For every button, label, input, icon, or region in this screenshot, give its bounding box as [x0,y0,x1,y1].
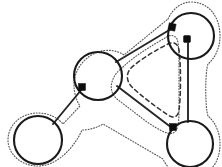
marker-top-left [168,23,176,31]
marker-bottom-right [170,124,177,131]
inner-dashed-triangle [127,43,180,117]
diagram-canvas [0,0,222,167]
edge-middle-to-bottomright [117,86,172,128]
marker-top-bottom [184,36,191,43]
marker-middle [79,84,86,91]
figure-root: Graph diagram with circular vertices, co… [0,0,222,167]
graph-markers [79,23,191,131]
circle-bottom-left [14,116,62,164]
edge-middle-to-topright [116,29,171,62]
inner-dashed-triangle-path [127,43,180,117]
